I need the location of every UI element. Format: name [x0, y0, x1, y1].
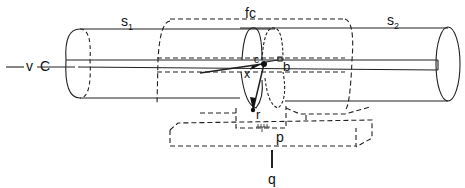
- label-b: b: [283, 60, 290, 73]
- label-fc: fc: [245, 6, 256, 20]
- label-r: r: [256, 108, 260, 121]
- label-c: c: [254, 55, 259, 65]
- label-q: q: [268, 172, 276, 186]
- point-c: [261, 61, 267, 67]
- diagram-canvas: s1 s2 fc v C c x b r p q: [0, 0, 465, 188]
- label-c-left: C: [40, 59, 50, 73]
- label-p: p: [276, 130, 284, 144]
- label-s2: s2: [387, 13, 399, 31]
- label-x: x: [244, 68, 250, 80]
- label-v: v: [26, 59, 33, 73]
- label-s1: s1: [121, 14, 133, 32]
- stand-p: [170, 106, 372, 147]
